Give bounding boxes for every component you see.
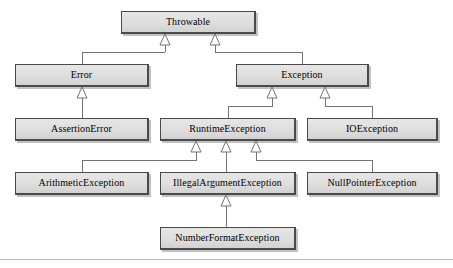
inheritance-arrow-icon: [221, 195, 231, 206]
inheritance-arrow-icon: [77, 87, 87, 98]
inheritance-arrow-icon: [251, 141, 261, 152]
class-node-number-format-exception[interactable]: NumberFormatException: [160, 227, 296, 250]
class-node-io-exception[interactable]: IOException: [307, 118, 438, 141]
class-label: RuntimeException: [189, 124, 266, 134]
class-label: Error: [71, 70, 93, 80]
inheritance-arrow-icon: [221, 141, 231, 152]
class-node-runtime-exception[interactable]: RuntimeException: [160, 118, 296, 141]
class-node-arithmetic-exception[interactable]: ArithmeticException: [15, 172, 149, 195]
inheritance-arrow-icon: [267, 87, 277, 98]
class-label: NumberFormatException: [175, 233, 279, 243]
class-node-assertion-error[interactable]: AssertionError: [15, 118, 149, 141]
inheritance-arrow-icon: [160, 34, 170, 45]
edge-runtimeexception-arithmeticexception: [82, 152, 196, 172]
edge-throwable-exception: [215, 52, 302, 64]
class-node-null-pointer-exception[interactable]: NullPointerException: [307, 172, 438, 195]
inheritance-arrow-icon: [191, 141, 201, 152]
class-node-throwable[interactable]: Throwable: [121, 11, 256, 34]
edge-runtimeexception-nullpointerexception: [256, 152, 372, 172]
footer-divider: [0, 259, 453, 260]
class-node-exception[interactable]: Exception: [236, 64, 369, 87]
inheritance-arrow-icon: [210, 34, 220, 45]
class-hierarchy-diagram: Throwable Error Exception AssertionError…: [0, 0, 453, 268]
class-label: IOException: [346, 124, 398, 134]
edge-exception-runtimeexception: [228, 98, 272, 118]
edge-throwable-error: [82, 52, 165, 64]
class-label: ArithmeticException: [39, 178, 125, 188]
class-label: AssertionError: [51, 124, 112, 134]
class-node-error[interactable]: Error: [15, 64, 149, 87]
class-label: Throwable: [166, 17, 210, 27]
class-label: IllegalArgumentException: [173, 178, 282, 188]
inheritance-arrow-icon: [320, 87, 330, 98]
edge-exception-ioexception: [325, 98, 372, 118]
class-node-illegal-argument-exception[interactable]: IllegalArgumentException: [160, 172, 296, 195]
class-label: Exception: [281, 70, 322, 80]
class-label: NullPointerException: [327, 178, 416, 188]
